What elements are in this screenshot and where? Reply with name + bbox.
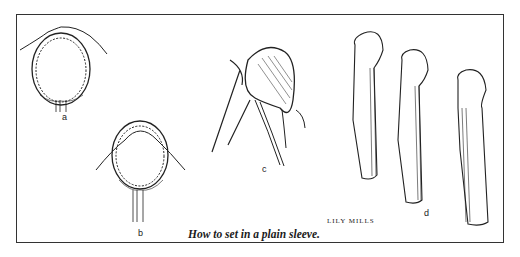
sleeve-illustrations	[0, 0, 520, 257]
panel-d-drawing	[353, 32, 488, 225]
credit-text: LILY MILLS	[327, 217, 375, 225]
panel-b-label: b	[138, 228, 143, 238]
panel-c-drawing	[212, 48, 305, 167]
panel-b-drawing	[96, 121, 185, 222]
panel-a-drawing	[20, 27, 107, 112]
panel-a-label: a	[62, 112, 67, 122]
panel-d-label: d	[424, 208, 429, 218]
panel-c-label: c	[262, 164, 267, 174]
figure-caption: How to set in a plain sleeve.	[188, 228, 320, 240]
